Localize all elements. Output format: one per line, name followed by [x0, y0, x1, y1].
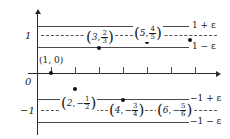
- y-tick-label-neg1: −1: [20, 106, 35, 116]
- point-3-fraction: 23: [101, 30, 107, 46]
- data-point-3: [97, 46, 101, 50]
- point-2-sign: −: [76, 99, 84, 108]
- x-tick-5: [147, 67, 148, 74]
- point-4-fraction: 34: [132, 103, 138, 119]
- point-6-sign: −: [172, 106, 180, 115]
- band-label-upper-outer: 1 + ε: [192, 21, 216, 30]
- point-label-6: (6,−56): [156, 103, 193, 119]
- y-tick-label-0: 0: [25, 77, 31, 87]
- figure-canvas: 1 0 −1 1 + ε 1 − ε −1 + ε −1 − ε (1, 0) …: [0, 0, 230, 139]
- x-tick-7: [195, 67, 196, 74]
- point-3-comma: ,: [98, 33, 101, 42]
- point-label-5: (5,45): [133, 26, 163, 42]
- y-axis-line: [37, 13, 38, 135]
- paren-close: ): [108, 30, 114, 45]
- point-6-fraction: 56: [180, 103, 186, 119]
- paren-close: ): [156, 26, 162, 41]
- data-point-7: [188, 38, 192, 42]
- point-2-fraction: 12: [84, 96, 90, 112]
- y-tick-label-1: 1: [25, 31, 31, 41]
- x-tick-2: [75, 67, 76, 74]
- y-axis-arrow-icon: [35, 9, 41, 14]
- data-point-1: [49, 71, 53, 75]
- paren-close: ): [138, 103, 144, 118]
- band-line-lower-outer: [37, 122, 189, 123]
- point-5-fraction: 45: [149, 26, 155, 42]
- band-line-upper-center: [41, 35, 217, 36]
- point-6-comma: ,: [169, 106, 172, 115]
- point-label-1: (1, 0): [38, 56, 64, 65]
- band-line-upper-inner: [37, 47, 189, 48]
- data-point-2: [73, 87, 77, 91]
- paren-close: ): [186, 103, 192, 118]
- paren-close: ): [90, 96, 96, 111]
- point-4-comma: ,: [121, 106, 124, 115]
- point-label-3: (3,23): [85, 30, 115, 46]
- point-2-comma: ,: [73, 99, 76, 108]
- point-5-comma: ,: [146, 29, 149, 38]
- band-label-upper-inner: 1 − ε: [192, 42, 216, 51]
- point-label-2: (2,−12): [60, 96, 97, 112]
- point-4-sign: −: [124, 106, 132, 115]
- band-label-lower-outer: −1 − ε: [190, 117, 221, 126]
- band-line-upper-outer: [37, 26, 189, 27]
- x-tick-3: [99, 67, 100, 74]
- band-label-lower-inner: −1 + ε: [190, 94, 221, 103]
- x-axis-arrow-icon: [216, 71, 221, 77]
- x-tick-4: [123, 67, 124, 74]
- point-label-4: (4,−34): [108, 103, 145, 119]
- data-point-4: [121, 98, 125, 102]
- x-tick-6: [171, 67, 172, 74]
